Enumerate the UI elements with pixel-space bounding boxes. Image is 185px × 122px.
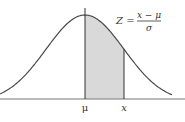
x-label: x <box>121 102 127 113</box>
mean-label: μ <box>82 102 89 113</box>
formula-denominator: σ <box>146 23 153 33</box>
z-score-formula: Z = x − μ σ <box>115 10 161 33</box>
formula-numerator: x − μ <box>137 10 161 20</box>
shaded-area-mean-to-x <box>85 15 124 99</box>
normal-distribution-diagram: μ x Z = x − μ σ <box>0 0 185 122</box>
formula-lhs: Z = <box>115 15 135 26</box>
